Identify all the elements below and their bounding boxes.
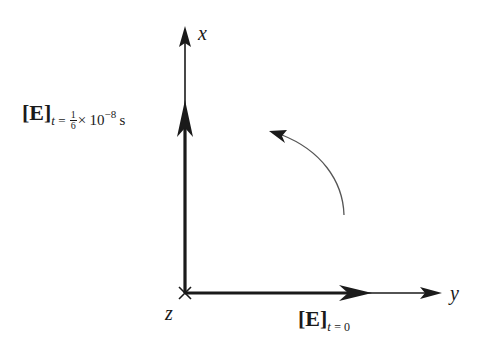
e-subscript: t = 16× 10−8 s — [51, 113, 125, 128]
e-subscript-y: t = 0 — [327, 319, 350, 334]
e-symbol-y: [E] — [298, 306, 327, 331]
x-axis-label: x — [198, 22, 207, 45]
fraction-denominator: 6 — [70, 121, 77, 131]
fraction: 16 — [70, 110, 77, 131]
time-variable: t — [51, 113, 55, 128]
mantissa: 10 — [90, 112, 105, 128]
equals-zero: = 0 — [334, 320, 350, 334]
rotation-arc — [282, 135, 344, 215]
y-axis-label: y — [450, 282, 459, 305]
diagram-canvas: x y z [E]t = 16× 10−8 s [E]t = 0 — [0, 0, 484, 359]
exponent: −8 — [105, 108, 117, 120]
e-vector-y-label: [E]t = 0 — [298, 306, 350, 332]
equals-sign: = — [58, 113, 65, 128]
times-sign: × — [78, 112, 86, 128]
time-variable-y: t — [327, 319, 331, 334]
e-symbol: [E] — [22, 100, 51, 125]
unit: s — [119, 112, 125, 128]
e-vector-x-label: [E]t = 16× 10−8 s — [22, 100, 125, 128]
diagram-drawing — [0, 0, 484, 359]
z-axis-label: z — [165, 302, 173, 325]
fraction-numerator: 1 — [70, 110, 77, 121]
